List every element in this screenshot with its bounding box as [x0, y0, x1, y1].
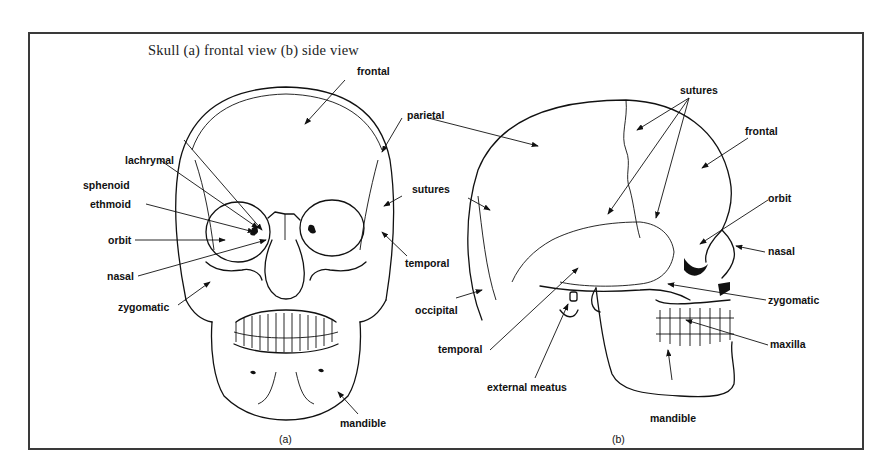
- label-b-zygomatic: zygomatic: [768, 295, 819, 306]
- label-b-frontal: frontal: [745, 126, 778, 137]
- label-a-lachrymal: lachrymal: [125, 155, 174, 166]
- skull-side-leaders: [428, 98, 768, 380]
- label-a-sutures: sutures: [412, 184, 450, 195]
- skull-side-drawing: [468, 100, 735, 397]
- label-a-nasal: nasal: [107, 271, 134, 282]
- label-b-occipital: occipital: [415, 305, 458, 316]
- label-b-maxilla: maxilla: [770, 339, 806, 350]
- label-a-orbit: orbit: [108, 235, 131, 246]
- label-b-external-meatus: external meatus: [487, 382, 567, 393]
- label-a-temporal: temporal: [405, 258, 449, 269]
- label-a-parietal: parietal: [407, 110, 444, 121]
- label-a-sphenoid: sphenoid: [83, 180, 130, 191]
- skull-illustrations: [0, 0, 893, 472]
- label-a-frontal: frontal: [357, 66, 390, 77]
- label-a-zygomatic: zygomatic: [118, 302, 169, 313]
- label-b-mandible: mandible: [650, 413, 696, 424]
- caption-a: (a): [279, 433, 292, 445]
- caption-b: (b): [612, 433, 625, 445]
- label-b-sutures: sutures: [680, 85, 718, 96]
- skull-frontal-drawing: [176, 87, 394, 420]
- label-b-nasal: nasal: [768, 246, 795, 257]
- label-a-ethmoid: ethmoid: [90, 199, 131, 210]
- label-b-orbit: orbit: [768, 193, 791, 204]
- label-b-temporal: temporal: [438, 344, 482, 355]
- skull-frontal-leaders: [135, 80, 407, 414]
- label-a-mandible: mandible: [340, 418, 386, 429]
